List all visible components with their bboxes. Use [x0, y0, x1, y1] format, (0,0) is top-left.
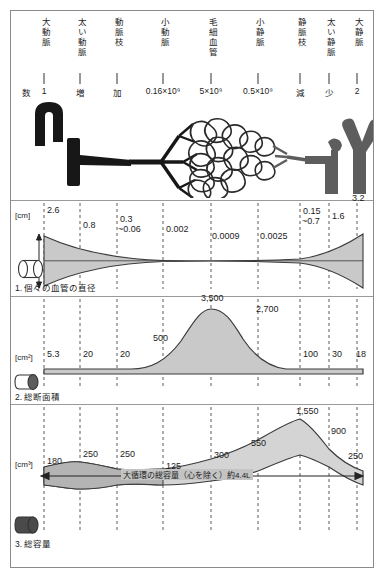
value-area-8: 18 — [356, 350, 366, 359]
area-chart — [11, 297, 373, 404]
value-diameter-0: 2.6 — [47, 206, 60, 215]
column-header-count: 5×10⁹ — [200, 86, 223, 96]
value-diameter-3: 0.002 — [166, 225, 189, 234]
value-volume-8: 250 — [348, 452, 363, 461]
value-area-2: 20 — [120, 350, 130, 359]
thick-artery-icon — [67, 138, 131, 186]
column-header-count: 0.16×10⁹ — [146, 86, 181, 96]
section-label-diameter: 1. 個々の血管の直径 — [15, 281, 96, 293]
capillary-network-icon — [188, 119, 275, 198]
figure-root: 大動脈 1 太い動脈 増 動脈枝 加 小動脈 0.16×10⁹ 毛細血管 5×1… — [0, 0, 386, 580]
column-header-label: 大静脈 — [352, 18, 361, 48]
value-diameter-1: 0.8 — [83, 221, 96, 230]
area-curve — [44, 309, 363, 374]
value-volume-6: 1,550 — [296, 407, 319, 416]
unit-diameter: [cm] — [15, 211, 30, 220]
value-diameter-5: 0.0025 — [260, 232, 288, 241]
unit-area: [cm²] — [15, 353, 33, 362]
column-header-count: 少 — [325, 86, 334, 98]
header-tick — [300, 73, 301, 84]
vena-cava-icon — [342, 119, 373, 194]
header-tick — [80, 73, 81, 84]
value-diameter-7: 1.6 — [332, 212, 345, 221]
column-header-count: 減 — [296, 86, 305, 98]
vessel-lumen-icon — [15, 375, 38, 390]
panel-volume: [cm³] 180 250 250 125 300 550 1,550 900 … — [11, 404, 373, 559]
total-volume-annotation: 大循環の総容量（心を除く）約4.4L — [121, 469, 253, 480]
panel-diameter: [cm] 2.6 0.8 0.3 ~0.06 0.002 0.0009 0.00… — [11, 200, 373, 297]
column-header-label: 小静脈 — [253, 18, 262, 48]
header-tick — [258, 73, 259, 84]
column-header-count: 加 — [113, 86, 122, 98]
column-header-count: 0.5×10⁹ — [243, 86, 273, 96]
value-diameter-2b: ~0.06 — [118, 225, 141, 234]
section-label-volume: 3. 総容量 — [15, 537, 51, 549]
value-area-7: 30 — [332, 350, 342, 359]
value-area-5: 2,700 — [256, 305, 279, 314]
count-row-label: 数 — [22, 86, 31, 98]
column-header-label: 毛細血管 — [206, 18, 215, 58]
column-header-count: 2 — [355, 86, 360, 96]
unit-volume: [cm³] — [15, 460, 33, 469]
value-diameter-6b: ~0.7 — [302, 217, 320, 226]
column-header-count: 増 — [76, 86, 85, 98]
value-area-6: 100 — [303, 350, 318, 359]
column-header-label: 大動脈 — [39, 18, 48, 48]
header-tick — [329, 73, 330, 84]
column-header-label: 太い動脈 — [75, 18, 84, 58]
venous-branches-icon — [273, 146, 307, 168]
value-volume-4: 300 — [214, 451, 229, 460]
thick-vein-icon — [305, 138, 342, 194]
value-diameter-8: 3.2 — [352, 194, 365, 203]
vessel-cross-section-icon — [19, 261, 43, 278]
value-area-1: 20 — [83, 350, 93, 359]
header-tick — [211, 73, 212, 84]
value-area-4: 3,500 — [201, 294, 224, 303]
header-tick — [163, 73, 164, 84]
column-header-label: 小動脈 — [158, 18, 167, 48]
value-volume-0: 180 — [47, 457, 62, 466]
volume-chart — [11, 405, 373, 558]
header-tick — [117, 73, 118, 84]
column-header-label: 静脈枝 — [295, 18, 304, 48]
arterial-branches-icon — [129, 124, 197, 198]
filled-vessel-icon — [15, 517, 38, 533]
header-tick — [357, 73, 358, 84]
header-tick — [44, 73, 45, 84]
panel-area: [cm²] 5.3 20 20 500 3,500 2,700 100 30 1… — [11, 296, 373, 405]
vessel-illustration — [11, 98, 373, 198]
aortic-arch-icon — [35, 102, 63, 146]
column-header-label: 太い静脈 — [324, 18, 333, 58]
column-header-count: 1 — [42, 86, 47, 96]
value-volume-7: 900 — [331, 427, 346, 436]
section-label-area: 2. 総断面積 — [15, 390, 60, 402]
value-volume-2: 250 — [120, 450, 135, 459]
value-volume-5: 550 — [251, 439, 266, 448]
value-volume-1: 250 — [83, 450, 98, 459]
value-area-0: 5.3 — [47, 350, 60, 359]
column-header-label: 動脈枝 — [112, 18, 121, 48]
value-diameter-4: 0.0009 — [212, 232, 240, 241]
value-area-3: 500 — [153, 334, 168, 343]
